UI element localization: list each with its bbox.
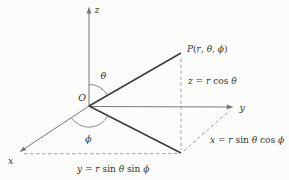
diagram-canvas: z y x O θ ϕ P(r, θ, ϕ) z = r cos θ x = r…: [0, 0, 289, 180]
figure-background: [0, 0, 289, 180]
phi-angle-label: ϕ: [85, 133, 92, 144]
theta-angle-label: θ: [101, 70, 107, 81]
z-axis-label: z: [94, 4, 101, 15]
y-axis-label: y: [239, 102, 246, 113]
y-equation-label: y = r sin θ sin ϕ: [76, 164, 149, 174]
y-axis-line: [89, 107, 227, 108]
z-equation-label: z = r cos θ: [187, 76, 237, 86]
origin-label: O: [78, 92, 86, 103]
spherical-coordinates-figure: z y x O θ ϕ P(r, θ, ϕ) z = r cos θ x = r…: [0, 0, 289, 180]
point-p-label: P(r, θ, ϕ): [186, 44, 227, 54]
x-equation-label: x = r sin θ cos ϕ: [210, 135, 284, 145]
x-axis-label: x: [8, 155, 14, 166]
